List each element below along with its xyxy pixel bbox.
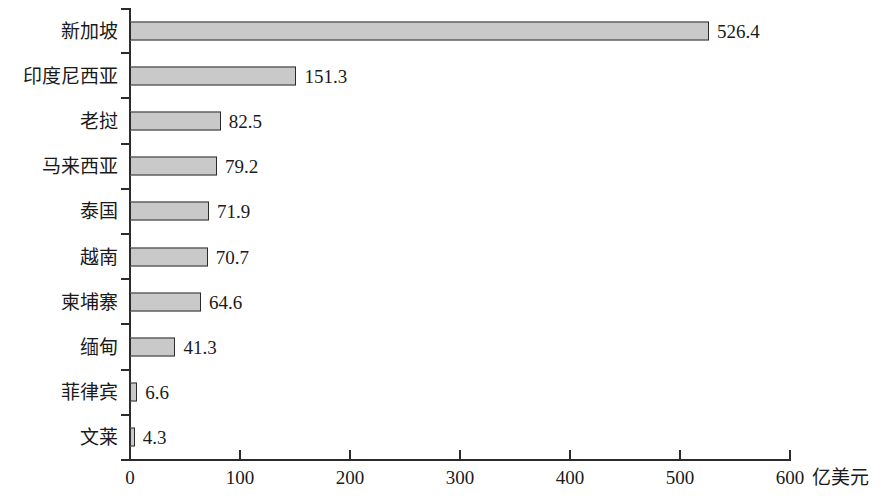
x-axis-tick: [569, 450, 571, 460]
x-axis-tick: [459, 450, 461, 460]
x-axis-unit-label: 亿美元: [812, 468, 869, 487]
y-axis-tick: [121, 233, 130, 235]
y-axis-tick: [121, 278, 130, 280]
bar-row: 越南70.7: [130, 234, 790, 279]
bar-value-label: 64.6: [209, 292, 242, 311]
y-axis-tick: [121, 8, 130, 10]
bar-value-label: 82.5: [229, 111, 262, 130]
category-label: 缅甸: [80, 337, 118, 356]
bar: [130, 247, 208, 266]
y-axis-tick: [121, 369, 130, 371]
bar: [130, 383, 137, 402]
bar: [130, 428, 135, 447]
bar-value-label: 526.4: [717, 21, 760, 40]
x-axis-tick: [679, 450, 681, 460]
x-axis-tick-label: 600: [776, 468, 805, 487]
bar-row: 柬埔寨64.6: [130, 279, 790, 324]
x-axis-tick: [349, 450, 351, 460]
y-axis-tick: [121, 188, 130, 190]
bar-row: 泰国71.9: [130, 189, 790, 234]
x-axis-tick-label: 100: [226, 468, 255, 487]
category-label: 柬埔寨: [61, 292, 118, 311]
bar: [130, 337, 175, 356]
bar-row: 新加坡526.4: [130, 8, 790, 53]
bar-chart: 新加坡526.4印度尼西亚151.3老挝82.5马来西亚79.2泰国71.9越南…: [0, 0, 888, 496]
bar-value-label: 6.6: [145, 383, 169, 402]
bar-value-label: 4.3: [143, 428, 167, 447]
bar: [130, 292, 201, 311]
x-axis-tick: [789, 450, 791, 460]
y-axis-tick: [121, 414, 130, 416]
y-axis-tick: [121, 143, 130, 145]
y-axis-tick: [121, 323, 130, 325]
category-label: 越南: [80, 247, 118, 266]
x-axis-tick-label: 300: [446, 468, 475, 487]
y-axis-tick: [121, 97, 130, 99]
category-label: 马来西亚: [42, 157, 118, 176]
category-label: 文莱: [80, 428, 118, 447]
category-label: 泰国: [80, 202, 118, 221]
plot-area: 新加坡526.4印度尼西亚151.3老挝82.5马来西亚79.2泰国71.9越南…: [130, 8, 790, 460]
category-label: 新加坡: [61, 21, 118, 40]
bar: [130, 111, 221, 130]
bar-row: 印度尼西亚151.3: [130, 53, 790, 98]
bar: [130, 157, 217, 176]
bar-row: 老挝82.5: [130, 98, 790, 143]
bar-value-label: 41.3: [183, 337, 216, 356]
bar-value-label: 70.7: [216, 247, 249, 266]
y-axis-tick: [121, 459, 130, 461]
bar: [130, 66, 296, 85]
category-label: 菲律宾: [61, 383, 118, 402]
category-label: 印度尼西亚: [23, 66, 118, 85]
x-axis-tick-label: 400: [556, 468, 585, 487]
bar-row: 马来西亚79.2: [130, 144, 790, 189]
bar-value-label: 71.9: [217, 202, 250, 221]
bar: [130, 21, 709, 40]
bar-row: 缅甸41.3: [130, 324, 790, 369]
y-axis-tick: [121, 52, 130, 54]
bar-value-label: 79.2: [225, 157, 258, 176]
x-axis-tick-label: 500: [666, 468, 695, 487]
bar-row: 菲律宾6.6: [130, 370, 790, 415]
bar-value-label: 151.3: [304, 66, 347, 85]
x-axis-tick-label: 200: [336, 468, 365, 487]
category-label: 老挝: [80, 111, 118, 130]
x-axis-tick: [239, 450, 241, 460]
x-axis-tick-label: 0: [125, 468, 135, 487]
bar: [130, 202, 209, 221]
